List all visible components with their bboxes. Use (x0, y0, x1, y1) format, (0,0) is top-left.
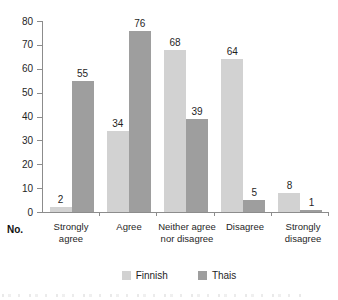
x-tick-mark (328, 212, 329, 216)
bar-value-label: 55 (77, 68, 88, 79)
y-axis-unit-label: No. (7, 224, 23, 235)
bar-finnish: 68 (164, 50, 186, 212)
y-tick-mark (37, 117, 42, 118)
legend: FinnishThais (0, 270, 338, 281)
x-tick-mark (156, 212, 157, 216)
bar-thais: 5 (243, 200, 265, 212)
y-tick-label: 0 (0, 208, 33, 218)
y-tick-mark (37, 212, 42, 213)
y-tick-mark (37, 69, 42, 70)
bar-thais: 55 (72, 81, 94, 212)
legend-item-thais: Thais (198, 270, 236, 281)
x-tick-mark (271, 212, 272, 216)
bar-value-label: 39 (191, 106, 202, 117)
legend-label-thais: Thais (212, 270, 236, 281)
grouped-bar-chart-figure: 2553476683964581 01020304050607080 Stron… (0, 0, 338, 300)
y-tick-mark (37, 164, 42, 165)
x-label-neither-agree-nor-disagree: Neither agree nor disagree (158, 221, 216, 244)
x-tick-mark (99, 212, 100, 216)
x-label-strongly-disagree: Strongly disagree (274, 221, 332, 244)
x-label-strongly-agree: Strongly agree (42, 221, 100, 244)
bar-thais: 1 (300, 210, 322, 212)
y-tick-mark (37, 140, 42, 141)
x-label-text: Neither agree nor disagree (158, 221, 216, 244)
x-label-agree: Agree (100, 221, 158, 244)
bar-finnish: 8 (278, 193, 300, 212)
bar-value-label: 68 (169, 37, 180, 48)
x-label-disagree: Disagree (216, 221, 274, 244)
x-axis-category-labels: Strongly agreeAgreeNeither agree nor dis… (42, 221, 328, 244)
x-label-text: Strongly agree (42, 221, 100, 244)
y-tick-label: 10 (0, 184, 33, 194)
y-tick-label: 80 (0, 17, 33, 27)
legend-swatch-finnish (122, 271, 131, 280)
bar-value-label: 1 (309, 197, 315, 208)
bar-group-neither-agree-nor-disagree: 6839 (157, 21, 214, 212)
bar-group-strongly-disagree: 81 (272, 21, 329, 212)
y-tick-mark (37, 93, 42, 94)
y-tick-label: 50 (0, 88, 33, 98)
legend-swatch-thais (198, 271, 207, 280)
y-tick-mark (37, 21, 42, 22)
bar-group-strongly-agree: 255 (43, 21, 100, 212)
x-tick-mark (214, 212, 215, 216)
legend-label-finnish: Finnish (136, 270, 168, 281)
y-tick-mark (37, 45, 42, 46)
y-tick-label: 20 (0, 160, 33, 170)
bar-thais: 39 (186, 119, 208, 212)
x-label-text: Strongly disagree (274, 221, 332, 244)
bar-finnish: 2 (50, 207, 72, 212)
bar-value-label: 64 (227, 46, 238, 57)
y-tick-label: 70 (0, 40, 33, 50)
y-tick-mark (37, 188, 42, 189)
y-tick-label: 30 (0, 136, 33, 146)
bar-group-agree: 3476 (100, 21, 157, 212)
bar-finnish: 34 (107, 131, 129, 212)
x-label-text: Disagree (216, 221, 274, 233)
bar-value-label: 2 (58, 194, 64, 205)
x-label-text: Agree (100, 221, 158, 233)
bar-finnish: 64 (221, 59, 243, 212)
bar-value-label: 5 (251, 187, 257, 198)
plot-area: 2553476683964581 (42, 21, 329, 213)
bar-value-label: 8 (287, 180, 293, 191)
bar-value-label: 76 (134, 18, 145, 29)
cropped-caption-remnant (2, 294, 304, 297)
bar-thais: 76 (129, 31, 151, 212)
y-tick-label: 40 (0, 112, 33, 122)
bar-value-label: 34 (112, 118, 123, 129)
bar-group-disagree: 645 (215, 21, 272, 212)
y-tick-label: 60 (0, 64, 33, 74)
legend-item-finnish: Finnish (122, 270, 168, 281)
